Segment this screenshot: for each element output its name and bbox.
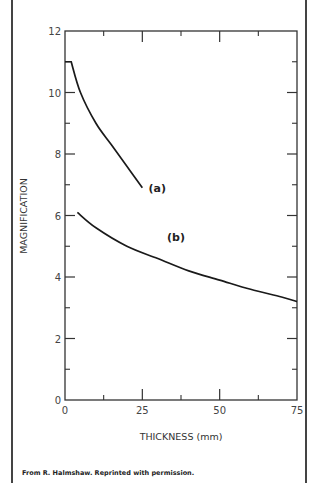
plot-axes bbox=[65, 31, 297, 400]
figure-caption: From R. Halmshaw. Reprinted with permiss… bbox=[22, 469, 194, 477]
y-tick-label: 8 bbox=[55, 149, 61, 160]
y-tick-label: 0 bbox=[55, 395, 61, 406]
y-tick-label: 6 bbox=[55, 211, 61, 222]
x-tick-label: 50 bbox=[213, 405, 226, 416]
y-tick-label: 2 bbox=[55, 334, 61, 345]
series-label-a: (a) bbox=[149, 182, 166, 195]
axis-ticks bbox=[65, 31, 297, 400]
x-tick-label: 75 bbox=[291, 405, 304, 416]
magnification-chart: 0246810120255075 (a)(b) THICKNESS (mm) M… bbox=[0, 0, 317, 483]
x-tick-label: 25 bbox=[136, 405, 149, 416]
plot-frame bbox=[65, 31, 297, 400]
series-labels: (a)(b) bbox=[149, 182, 185, 244]
series-label-b: (b) bbox=[167, 231, 185, 244]
y-axis-title: MAGNIFICATION bbox=[18, 178, 29, 254]
y-tick-label: 4 bbox=[55, 272, 61, 283]
series-curve-b bbox=[77, 212, 297, 301]
y-tick-label: 10 bbox=[48, 88, 61, 99]
y-tick-label: 12 bbox=[48, 26, 61, 37]
x-tick-label: 0 bbox=[62, 405, 68, 416]
series-curve-a bbox=[65, 62, 142, 188]
x-axis-title: THICKNESS (mm) bbox=[139, 431, 223, 442]
data-curves bbox=[65, 62, 297, 302]
